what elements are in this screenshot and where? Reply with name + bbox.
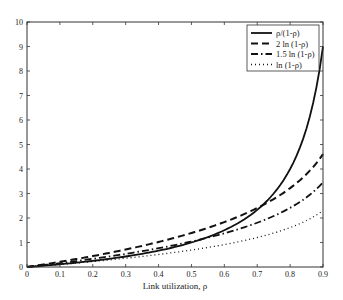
x-tick-label: 0.6	[219, 270, 229, 279]
y-tick-label: 0	[19, 263, 23, 272]
line-chart: 00.10.20.30.40.50.60.70.80.9 01234567891…	[0, 0, 343, 300]
series-line	[27, 182, 323, 267]
legend-label: 2 ln (1-ρ)	[276, 39, 308, 49]
y-tick-label: 3	[19, 190, 23, 199]
y-tick-label: 10	[15, 18, 23, 27]
y-tick-label: 7	[19, 92, 23, 101]
chart-curves	[27, 47, 323, 268]
legend-label: 1.5 ln (1-ρ)	[276, 49, 315, 59]
x-tick-label: 0.9	[318, 270, 328, 279]
y-tick-label: 1	[19, 239, 23, 248]
y-tick-label: 6	[19, 116, 23, 125]
y-tick-label: 8	[19, 67, 23, 76]
x-tick-label: 0.1	[55, 270, 65, 279]
x-tick-label: 0.5	[186, 270, 196, 279]
legend-label: ln (1-ρ)	[276, 60, 302, 70]
x-tick-label: 0.7	[252, 270, 262, 279]
legend-label: ρ/(1-ρ)	[276, 28, 300, 38]
x-tick-label: 0.2	[88, 270, 98, 279]
x-axis-title: Link utilization, ρ	[143, 281, 208, 291]
y-tick-label: 5	[19, 141, 23, 150]
x-tick-label: 0.4	[154, 270, 164, 279]
series-line	[27, 154, 323, 267]
x-tick-label: 0.3	[121, 270, 131, 279]
legend: ρ/(1-ρ)2 ln (1-ρ)1.5 ln (1-ρ)ln (1-ρ)	[247, 25, 319, 71]
y-tick-label: 9	[19, 43, 23, 52]
y-tick-label: 4	[19, 165, 23, 174]
series-line	[27, 211, 323, 267]
x-tick-label: 0	[25, 270, 29, 279]
x-tick-label: 0.8	[285, 270, 295, 279]
series-line	[27, 47, 323, 268]
y-tick-label: 2	[19, 214, 23, 223]
